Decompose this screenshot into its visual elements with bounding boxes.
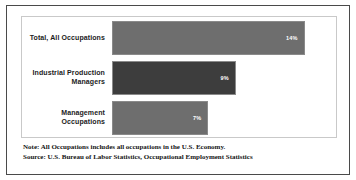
bar-value-label: 14% xyxy=(286,35,298,41)
footnotes: Note: All Occupations includes all occup… xyxy=(23,142,335,162)
plot-area: Total, All Occupations 14% Industrial Pr… xyxy=(21,16,337,138)
bar-total-all-occupations[interactable]: 14% xyxy=(112,21,305,55)
bar-industrial-production-managers[interactable]: 9% xyxy=(112,61,236,95)
category-label-total-all-occupations: Total, All Occupations xyxy=(22,21,108,55)
category-label-management-occupations: Management Occupations xyxy=(22,101,108,135)
bar-row: Management Occupations 7% xyxy=(22,101,336,135)
bar-value-label: 7% xyxy=(193,115,201,121)
bar-row: Industrial Production Managers 9% xyxy=(22,61,336,95)
bar-management-occupations[interactable]: 7% xyxy=(112,101,208,135)
bar-row: Total, All Occupations 14% xyxy=(22,21,336,55)
bar-value-label: 9% xyxy=(220,75,228,81)
footnote-note: Note: All Occupations includes all occup… xyxy=(23,142,335,152)
category-label-industrial-production-managers: Industrial Production Managers xyxy=(22,61,108,95)
chart-figure: Total, All Occupations 14% Industrial Pr… xyxy=(6,5,350,175)
footnote-source: Source: U.S. Bureau of Labor Statistics,… xyxy=(23,152,335,162)
